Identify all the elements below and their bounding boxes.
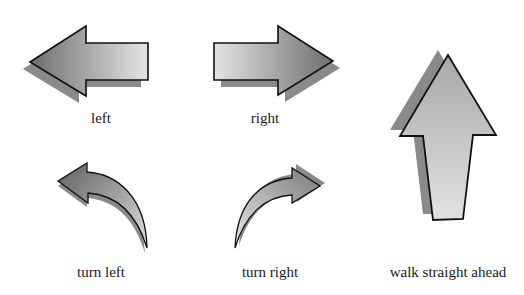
label-left: left (91, 110, 111, 127)
curved-arrow-right-icon (235, 164, 325, 248)
direction-arrows-diagram (0, 0, 524, 295)
arrow-right-icon (214, 26, 340, 102)
arrow-left-icon (23, 26, 148, 103)
arrow-up-icon (390, 50, 496, 220)
label-turn-right: turn right (242, 264, 298, 281)
label-turn-left: turn left (77, 264, 125, 281)
label-walk-straight-ahead: walk straight ahead (390, 264, 507, 281)
curved-arrow-left-icon (58, 163, 147, 253)
label-right: right (251, 110, 279, 127)
